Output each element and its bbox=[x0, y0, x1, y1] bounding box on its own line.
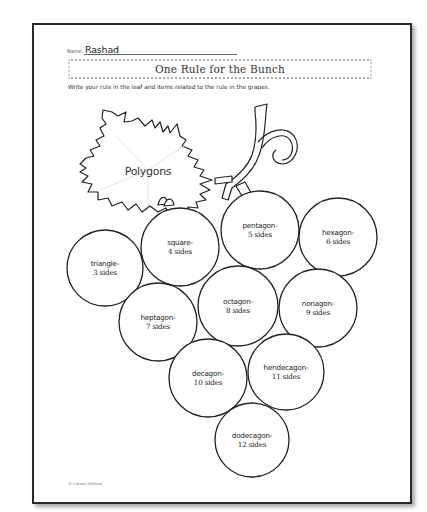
polygon-name: octagon- bbox=[203, 297, 273, 306]
polygon-sides: 3 sides bbox=[70, 268, 140, 277]
grape-label: decagon-10 sides bbox=[173, 369, 243, 387]
grape-label: hexagon-6 sides bbox=[303, 228, 373, 246]
polygon-name: triangle- bbox=[70, 259, 140, 268]
polygon-name: nonagon- bbox=[283, 299, 353, 308]
grape-label: dodecagon-12 sides bbox=[217, 431, 287, 449]
polygon-name: hexagon- bbox=[303, 228, 373, 237]
grape-label: octagon-8 sides bbox=[203, 297, 273, 315]
polygon-sides: 11 sides bbox=[251, 372, 321, 381]
grape-label: triangle-3 sides bbox=[70, 259, 140, 277]
polygon-sides: 12 sides bbox=[217, 440, 287, 449]
polygon-sides: 9 sides bbox=[283, 308, 353, 317]
polygon-sides: 5 sides bbox=[225, 230, 295, 239]
polygon-name: heptagon- bbox=[123, 313, 193, 322]
polygon-sides: 6 sides bbox=[303, 237, 373, 246]
polygon-name: decagon- bbox=[173, 369, 243, 378]
grape-label: nonagon-9 sides bbox=[283, 299, 353, 317]
leaf-rule: Polygons bbox=[125, 165, 172, 178]
grape-label: pentagon-5 sides bbox=[225, 221, 295, 239]
polygon-name: dodecagon- bbox=[217, 431, 287, 440]
grape-label: hendecagon-11 sides bbox=[251, 363, 321, 381]
grape-label: heptagon-7 sides bbox=[123, 313, 193, 331]
leaf-branch bbox=[215, 176, 232, 184]
grape-leaf bbox=[80, 110, 212, 216]
polygon-sides: 7 sides bbox=[123, 322, 193, 331]
grape-bunch-illustration bbox=[0, 0, 427, 512]
polygon-name: pentagon- bbox=[225, 221, 295, 230]
grape-label: square-4 sides bbox=[145, 238, 215, 256]
polygon-name: hendecagon- bbox=[251, 363, 321, 372]
polygon-sides: 10 sides bbox=[173, 378, 243, 387]
copyright: © Carson Dellosa bbox=[68, 481, 101, 486]
polygon-sides: 8 sides bbox=[203, 306, 273, 315]
polygon-name: square- bbox=[145, 238, 215, 247]
polygon-sides: 4 sides bbox=[145, 247, 215, 256]
